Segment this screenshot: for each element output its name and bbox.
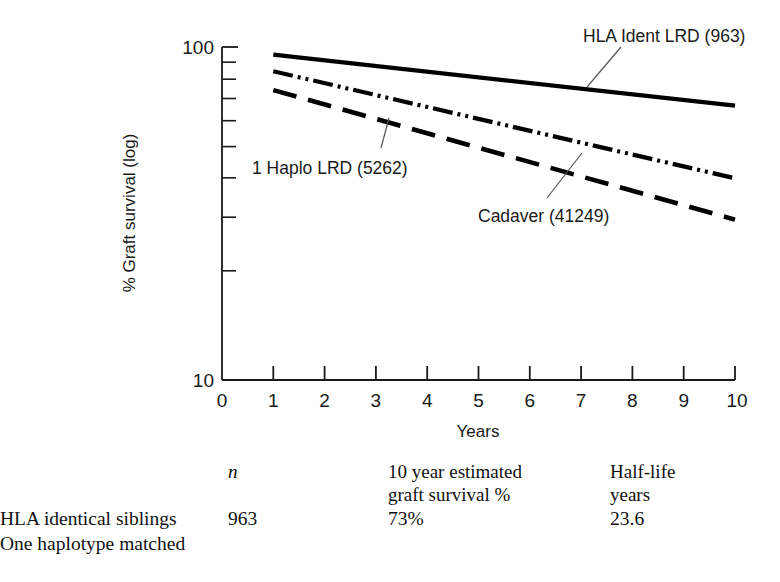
table-row: One haplotype matched [0, 531, 780, 556]
x-tick-label-10: 10 [726, 390, 747, 411]
cell-n: 963 [228, 506, 388, 531]
series-label-one-haplo-lrd: 1 Haplo LRD (5262) [252, 158, 408, 178]
header-halflife: Half-life years [610, 460, 780, 506]
header-group [0, 460, 228, 506]
header-halflife-line1: Half-life [610, 460, 780, 483]
cell-survival [388, 531, 610, 556]
graft-survival-figure: 100 10 0 1 2 3 4 5 6 7 8 9 10 Years % Gr… [0, 0, 780, 460]
x-tick-label-5: 5 [473, 390, 484, 411]
graft-survival-summary-table: n 10 year estimated graft survival % Hal… [0, 460, 780, 556]
x-axis-ticks [273, 366, 735, 380]
header-survival-line1: 10 year estimated [388, 460, 610, 483]
x-axis-title: Years [457, 422, 500, 441]
cell-group: HLA identical siblings [0, 506, 228, 531]
graft-survival-chart: 100 10 0 1 2 3 4 5 6 7 8 9 10 Years % Gr… [0, 0, 780, 460]
y-axis-title: % Graft survival (log) [120, 134, 139, 293]
x-tick-label-9: 9 [678, 390, 689, 411]
cell-halflife [610, 531, 780, 556]
header-survival: 10 year estimated graft survival % [388, 460, 610, 506]
table-row: HLA identical siblings 963 73% 23.6 [0, 506, 780, 531]
series-line-cadaver [273, 90, 735, 220]
series-label-cadaver: Cadaver (41249) [478, 206, 609, 226]
x-tick-label-8: 8 [627, 390, 638, 411]
leader-line-cadaver [547, 153, 582, 198]
y-axis-major-ticks [222, 47, 238, 380]
cell-group: One haplotype matched [0, 531, 228, 556]
x-tick-label-3: 3 [371, 390, 382, 411]
cell-halflife: 23.6 [610, 506, 780, 531]
table-body: HLA identical siblings 963 73% 23.6 One … [0, 506, 780, 556]
x-tick-label-2: 2 [319, 390, 330, 411]
cell-survival: 73% [388, 506, 610, 531]
header-n: n [228, 460, 388, 506]
x-tick-label-4: 4 [422, 390, 433, 411]
y-tick-label-100: 100 [182, 37, 214, 58]
summary-table-region: n 10 year estimated graft survival % Hal… [0, 460, 780, 582]
x-tick-label-0: 0 [217, 390, 228, 411]
series-line-hla-ident-lrd [273, 55, 735, 106]
x-tick-label-7: 7 [576, 390, 587, 411]
header-halflife-line2: years [610, 483, 780, 506]
table-header-row: n 10 year estimated graft survival % Hal… [0, 460, 780, 506]
table-header: n 10 year estimated graft survival % Hal… [0, 460, 780, 506]
x-tick-label-1: 1 [268, 390, 279, 411]
leader-line-hla-ident-lrd [587, 47, 621, 87]
header-n-label: n [228, 461, 238, 482]
header-survival-line2: graft survival % [388, 483, 610, 506]
x-tick-label-6: 6 [525, 390, 536, 411]
y-tick-label-10: 10 [193, 370, 214, 391]
cell-n [228, 531, 388, 556]
series-label-hla-ident-lrd: HLA Ident LRD (963) [583, 26, 745, 46]
y-axis-minor-ticks [222, 62, 236, 271]
